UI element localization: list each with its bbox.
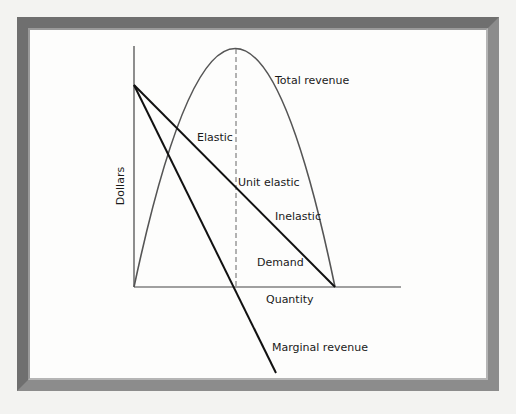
marginal-revenue-label: Marginal revenue: [272, 341, 368, 354]
marginal-revenue-curve: [134, 85, 276, 373]
y-axis-label: Dollars: [114, 167, 127, 206]
x-axis-label: Quantity: [266, 293, 314, 306]
demand-curve: [134, 85, 335, 287]
elastic-label: Elastic: [197, 131, 233, 144]
elasticity-revenue-diagram: Dollars Quantity Total revenue Elastic U…: [0, 0, 516, 414]
demand-label: Demand: [257, 256, 304, 269]
unit-elastic-label: Unit elastic: [238, 176, 300, 189]
inelastic-label: Inelastic: [275, 210, 321, 223]
total-revenue-label: Total revenue: [274, 74, 349, 87]
